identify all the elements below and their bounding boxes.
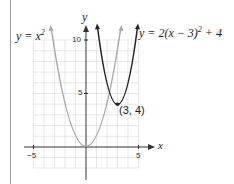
parent-curve-arrow-icon	[49, 25, 54, 31]
parent-curve-arrow-right-icon	[119, 25, 124, 31]
y-axis-arrow-icon	[83, 25, 89, 32]
x-axis-arrow-icon	[148, 144, 155, 150]
transformed-curve-label: y = 2(x − 3)2 + 4	[139, 25, 222, 41]
y-tick-5: 5	[78, 88, 82, 97]
x-tick-neg5: −5	[27, 151, 36, 160]
x-axis-label: x	[158, 139, 163, 151]
vertex-label: (3, 4)	[119, 104, 145, 116]
transformed-curve-arrow-icon	[95, 24, 100, 30]
y-axis-label: y	[82, 10, 87, 25]
x-tick-5: 5	[136, 151, 140, 160]
y-tick-10: 10	[72, 35, 81, 44]
parent-curve-label: y = x2	[16, 28, 45, 44]
